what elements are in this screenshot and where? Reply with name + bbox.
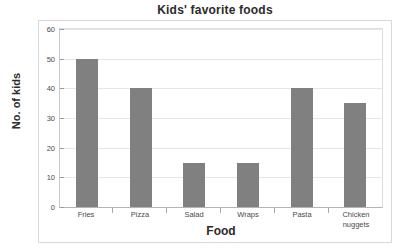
x-axis-tick-label-line: Fries (59, 210, 113, 220)
plot-area: 0102030405060 (59, 28, 383, 208)
bar[interactable] (344, 103, 366, 207)
bar-slot (167, 29, 221, 207)
x-axis-tick-label-line: Pizza (113, 210, 167, 220)
bar[interactable] (76, 59, 98, 207)
bar-slot (221, 29, 275, 207)
bar-slot (275, 29, 329, 207)
bar[interactable] (291, 88, 313, 207)
y-axis-title: No. of kids (10, 66, 22, 136)
bar-slot (60, 29, 114, 207)
bar-slot (328, 29, 382, 207)
bar[interactable] (130, 88, 152, 207)
bar[interactable] (183, 163, 205, 208)
x-axis-tick-label-line: Wraps (221, 210, 275, 220)
bar-slot (114, 29, 168, 207)
y-axis-tick-label: 50 (47, 54, 55, 63)
y-axis-tick-label: 0 (51, 203, 55, 212)
x-axis-tick-label-line: Pasta (275, 210, 329, 220)
chart-title: Kids' favorite foods (38, 3, 392, 17)
x-axis-tick-label-line: Chicken (329, 210, 383, 220)
y-axis-tick-label: 10 (47, 173, 55, 182)
y-axis-tick-label: 30 (47, 114, 55, 123)
y-axis-tick-label: 20 (47, 143, 55, 152)
x-axis-title: Food (59, 224, 383, 238)
y-axis-tick-label: 40 (47, 84, 55, 93)
y-axis-tick-label: 60 (47, 25, 55, 34)
x-axis-tick-label-line: Salad (167, 210, 221, 220)
bar[interactable] (237, 163, 259, 208)
bars-group (60, 29, 382, 207)
